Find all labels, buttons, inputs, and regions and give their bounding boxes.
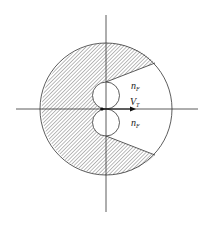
label-v: VT [130, 96, 140, 108]
origin-dot [101, 108, 104, 111]
label-n-lower: nF [131, 117, 140, 129]
arrowhead-icon [130, 107, 136, 112]
label-n-upper: nF [131, 80, 140, 92]
polar-diagram: nF VT nF [0, 0, 209, 226]
